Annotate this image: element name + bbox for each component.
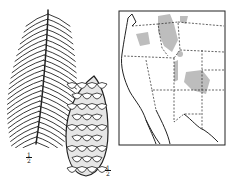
cone-scale	[67, 167, 77, 173]
needle	[12, 132, 37, 146]
branch-scale-label: 12	[25, 152, 33, 163]
needle	[36, 137, 60, 148]
cone-illustration	[64, 74, 110, 178]
needle	[46, 34, 74, 49]
needle	[11, 60, 44, 78]
needle	[37, 127, 64, 142]
needle	[36, 142, 58, 148]
cone-scale	[67, 83, 77, 89]
cone-scale-label: 12	[104, 165, 112, 176]
range-map	[118, 10, 226, 146]
needle	[38, 122, 66, 137]
